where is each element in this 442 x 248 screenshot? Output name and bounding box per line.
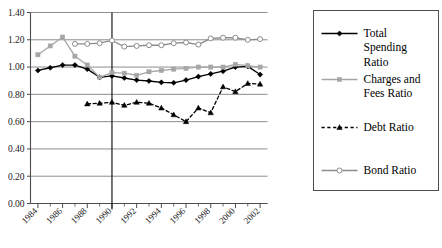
y-tick-label: 1.20 bbox=[8, 35, 25, 45]
data-point-circle-open bbox=[221, 35, 226, 40]
series-bond-ratio bbox=[72, 35, 262, 49]
data-point-square bbox=[233, 62, 237, 66]
data-point-circle-open bbox=[147, 43, 152, 48]
data-point-square bbox=[221, 65, 225, 69]
x-tick-label: 1994 bbox=[143, 205, 163, 225]
y-tick-label: 0.40 bbox=[8, 144, 25, 154]
data-point-circle-open bbox=[159, 43, 164, 48]
x-tick-label: 1986 bbox=[44, 205, 64, 225]
data-point-triangle bbox=[196, 105, 201, 110]
data-point-circle-open bbox=[245, 37, 250, 42]
data-point-diamond bbox=[183, 77, 188, 82]
x-tick-label: 2000 bbox=[217, 205, 237, 225]
data-point-square bbox=[60, 35, 64, 39]
data-point-circle-open bbox=[85, 41, 90, 46]
data-point-square bbox=[73, 54, 77, 58]
data-point-circle-open bbox=[258, 37, 263, 42]
data-point-circle-open bbox=[72, 41, 77, 46]
data-point-circle-open bbox=[233, 35, 238, 40]
data-point-square bbox=[184, 66, 188, 70]
y-tick-label: 1.00 bbox=[8, 62, 25, 72]
data-point-square bbox=[122, 71, 126, 75]
data-point-square bbox=[159, 68, 163, 72]
y-tick-label: 0.00 bbox=[8, 199, 25, 209]
x-tick-label: 1988 bbox=[69, 205, 89, 225]
data-point-triangle bbox=[159, 105, 164, 110]
data-point-diamond bbox=[48, 65, 53, 70]
y-axis-tick-labels: 0.000.200.400.600.801.001.201.40 bbox=[8, 8, 25, 209]
data-point-square bbox=[36, 53, 40, 57]
data-point-diamond bbox=[159, 80, 164, 85]
x-tick-label: 1998 bbox=[192, 205, 212, 225]
legend-label-text: Spending bbox=[364, 41, 408, 54]
legend-label-text: Bond Ratio bbox=[364, 164, 417, 176]
data-point-square bbox=[172, 67, 176, 71]
data-point-diamond bbox=[134, 77, 139, 82]
data-point-diamond bbox=[35, 68, 40, 73]
data-point-circle-open bbox=[337, 168, 342, 173]
y-tick-label: 0.80 bbox=[8, 90, 25, 100]
x-axis-tick-labels: 1984198619881990199219941996199820002002 bbox=[20, 205, 262, 225]
data-point-square bbox=[258, 65, 262, 69]
data-point-circle-open bbox=[122, 44, 127, 49]
legend-label-text: Charges and bbox=[364, 73, 421, 86]
legend-label-text: Debt Ratio bbox=[364, 121, 414, 133]
line-chart: 0.000.200.400.600.801.001.201.40 1984198… bbox=[0, 0, 442, 248]
data-point-circle-open bbox=[134, 43, 139, 48]
data-point-circle-open bbox=[184, 40, 189, 45]
data-point-diamond bbox=[171, 80, 176, 85]
data-point-circle-open bbox=[196, 42, 201, 47]
legend-label-text: Total bbox=[364, 27, 387, 39]
chart-container: 0.000.200.400.600.801.001.201.40 1984198… bbox=[0, 0, 442, 248]
data-point-diamond bbox=[208, 71, 213, 76]
data-point-diamond bbox=[196, 74, 201, 79]
data-point-square bbox=[209, 65, 213, 69]
data-point-square bbox=[48, 44, 52, 48]
x-tick-label: 1990 bbox=[94, 205, 114, 225]
data-series-group bbox=[35, 35, 262, 124]
y-tick-label: 0.20 bbox=[8, 172, 25, 182]
data-point-square bbox=[246, 64, 250, 68]
y-tick-label: 0.60 bbox=[8, 117, 25, 127]
x-tick-label: 1992 bbox=[118, 206, 138, 226]
data-point-diamond bbox=[146, 78, 151, 83]
chart-legend: TotalSpendingRatioCharges andFees RatioD… bbox=[314, 11, 439, 191]
data-point-square bbox=[147, 70, 151, 74]
data-point-triangle bbox=[220, 84, 225, 89]
data-point-square bbox=[135, 73, 139, 77]
legend-label-text: Ratio bbox=[364, 56, 389, 68]
series-debt-ratio bbox=[85, 81, 263, 124]
series-line bbox=[75, 38, 260, 47]
gridlines bbox=[31, 13, 268, 204]
x-axis-ticks bbox=[27, 13, 260, 209]
data-point-circle-open bbox=[171, 41, 176, 46]
data-point-diamond bbox=[122, 75, 127, 80]
x-tick-label: 2002 bbox=[242, 206, 262, 226]
data-point-circle-open bbox=[97, 41, 102, 46]
data-point-square bbox=[337, 77, 341, 81]
x-tick-label: 1996 bbox=[168, 205, 188, 225]
y-tick-label: 1.40 bbox=[8, 8, 25, 18]
axes bbox=[31, 13, 268, 204]
legend-label-text: Fees Ratio bbox=[364, 87, 413, 99]
data-point-circle-open bbox=[109, 38, 114, 43]
data-point-circle-open bbox=[208, 36, 213, 41]
data-point-square bbox=[85, 63, 89, 67]
data-point-square bbox=[110, 70, 114, 74]
series-charges-and-fees-ratio bbox=[36, 35, 262, 79]
data-point-square bbox=[196, 65, 200, 69]
data-point-square bbox=[98, 75, 102, 79]
